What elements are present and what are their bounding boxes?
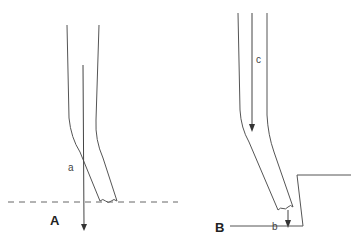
panel-a: a A xyxy=(8,25,178,231)
panel-b-break-mark xyxy=(278,206,293,211)
panel-b: c b B xyxy=(215,13,351,235)
panel-b-label: B xyxy=(215,220,224,235)
panel-a-tube-right-wall xyxy=(96,25,117,201)
annotation-c: c xyxy=(256,54,261,65)
panel-a-vertical-arrow xyxy=(83,65,84,226)
panel-b-arrowhead-c-icon xyxy=(249,124,255,132)
panel-b-tube-right-wall xyxy=(267,13,293,207)
annotation-a: a xyxy=(68,162,74,173)
panel-b-tube-left-wall xyxy=(238,13,278,210)
panel-b-step xyxy=(297,175,351,226)
panel-a-label: A xyxy=(50,213,60,228)
diagram-canvas: a A c b B xyxy=(0,0,362,244)
panel-a-arrowhead-icon xyxy=(81,224,87,231)
annotation-b: b xyxy=(272,221,278,232)
panel-b-arrowhead-b-icon xyxy=(285,220,291,228)
